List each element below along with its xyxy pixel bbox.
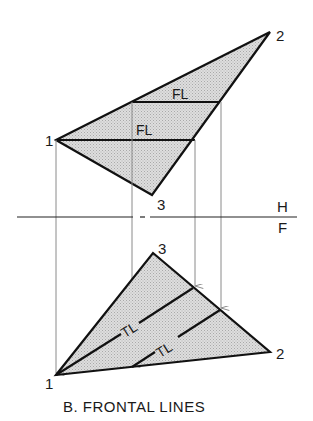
- top-frontal-line-lower-label: FL: [136, 122, 153, 138]
- top-point-1-label: 1: [45, 132, 53, 149]
- front-point-2-label: 2: [276, 345, 284, 362]
- figure-caption: B. FRONTAL LINES: [63, 398, 205, 415]
- frontal-lines-diagram: 1 2 3 FL FL H F 3 2 1 TL TL B. FRONTAL L…: [0, 0, 313, 421]
- front-point-1-label: 1: [45, 375, 53, 392]
- fold-label-h: H: [277, 198, 288, 215]
- top-point-3-label: 3: [157, 196, 165, 213]
- fold-label-f: F: [278, 219, 287, 236]
- top-triangle-plane: [56, 32, 270, 195]
- top-frontal-line-upper-label: FL: [172, 86, 189, 102]
- top-view: [56, 32, 270, 195]
- top-point-2-label: 2: [276, 27, 284, 44]
- front-point-3-label: 3: [158, 240, 166, 257]
